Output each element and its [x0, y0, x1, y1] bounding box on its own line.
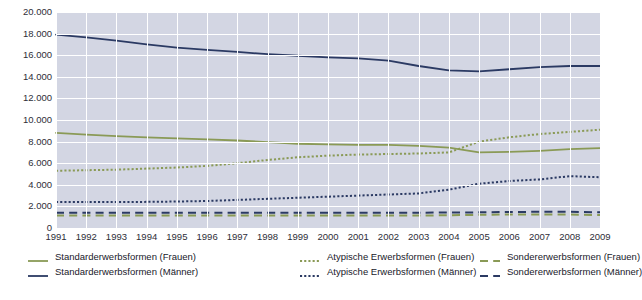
legend-item[interactable]: Sondererwerbsformen (Frauen): [480, 250, 640, 263]
x-tick-label: 1992: [76, 231, 97, 242]
x-tick-label: 2004: [438, 231, 459, 242]
gridline-vertical: [298, 12, 299, 228]
gridline-vertical: [419, 12, 420, 228]
gridline-vertical: [86, 12, 87, 228]
chart-legend: Standarderwerbsformen (Frauen)Standarder…: [28, 250, 628, 280]
y-tick-label: 20.000: [0, 7, 52, 17]
x-tick-label: 2006: [499, 231, 520, 242]
legend-swatch-dashed-icon: [480, 252, 500, 262]
y-tick-label: 14.000: [0, 72, 52, 82]
gridline-vertical: [56, 12, 57, 228]
gridline-vertical: [570, 12, 571, 228]
legend-swatch-dotted-icon: [300, 252, 320, 262]
y-tick-label: 4.000: [0, 180, 52, 190]
x-tick-label: 2009: [589, 231, 610, 242]
gridline-vertical: [207, 12, 208, 228]
x-tick-label: 1998: [257, 231, 278, 242]
x-tick-label: 2005: [469, 231, 490, 242]
gridline-vertical: [237, 12, 238, 228]
x-tick-label: 2001: [348, 231, 369, 242]
legend-label: Atypische Erwerbsformen (Frauen): [327, 251, 474, 262]
gridline-vertical: [479, 12, 480, 228]
gridline-vertical: [388, 12, 389, 228]
x-tick-label: 1994: [136, 231, 157, 242]
legend-swatch-dotted-icon: [300, 267, 320, 277]
x-tick-label: 2008: [559, 231, 580, 242]
legend-swatch-dashed-icon: [480, 267, 500, 277]
y-tick-label: 2.000: [0, 201, 52, 211]
gridline-vertical: [509, 12, 510, 228]
gridline-vertical: [449, 12, 450, 228]
y-tick-label: 8.000: [0, 137, 52, 147]
x-tick-label: 1999: [287, 231, 308, 242]
gridline-vertical: [540, 12, 541, 228]
legend-item[interactable]: Atypische Erwerbsformen (Frauen): [300, 250, 474, 263]
legend-item[interactable]: Sondererwerbsformen (Männer): [480, 265, 642, 278]
gridline-vertical: [358, 12, 359, 228]
gridline-vertical: [328, 12, 329, 228]
x-tick-label: 1995: [166, 231, 187, 242]
legend-label: Standarderwerbsformen (Frauen): [55, 251, 196, 262]
y-tick-label: 16.000: [0, 50, 52, 60]
x-tick-label: 1997: [227, 231, 248, 242]
legend-item[interactable]: Atypische Erwerbsformen (Männer): [300, 265, 476, 278]
gridline-vertical: [177, 12, 178, 228]
y-tick-label: 0: [0, 223, 52, 233]
gridline-vertical: [147, 12, 148, 228]
x-tick-label: 1993: [106, 231, 127, 242]
gridline-vertical: [268, 12, 269, 228]
legend-label: Atypische Erwerbsformen (Männer): [327, 266, 476, 277]
gridline-horizontal: [56, 228, 600, 229]
x-tick-label: 1996: [197, 231, 218, 242]
y-axis: 02.0004.0006.0008.00010.00012.00014.0001…: [0, 0, 52, 240]
legend-swatch-solid-icon: [28, 267, 48, 277]
legend-label: Sondererwerbsformen (Männer): [507, 266, 642, 277]
x-tick-label: 2007: [529, 231, 550, 242]
gridline-vertical: [600, 12, 601, 228]
gridline-vertical: [116, 12, 117, 228]
y-tick-label: 10.000: [0, 115, 52, 125]
x-tick-label: 2002: [378, 231, 399, 242]
legend-item[interactable]: Standarderwerbsformen (Frauen): [28, 250, 196, 263]
x-tick-label: 2003: [408, 231, 429, 242]
y-tick-label: 18.000: [0, 29, 52, 39]
x-axis: 1991199219931994199519961997199819992000…: [56, 231, 600, 245]
y-tick-label: 12.000: [0, 93, 52, 103]
plot-area: [56, 12, 600, 228]
y-tick-label: 6.000: [0, 158, 52, 168]
x-tick-label: 2000: [317, 231, 338, 242]
legend-label: Sondererwerbsformen (Frauen): [507, 251, 640, 262]
line-chart-figure: 02.0004.0006.0008.00010.00012.00014.0001…: [0, 0, 642, 300]
legend-label: Standarderwerbsformen (Männer): [55, 266, 198, 277]
legend-item[interactable]: Standarderwerbsformen (Männer): [28, 265, 198, 278]
legend-swatch-solid-icon: [28, 252, 48, 262]
x-tick-label: 1991: [45, 231, 66, 242]
